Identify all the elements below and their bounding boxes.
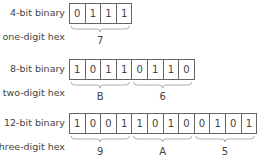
- brace: [71, 82, 129, 88]
- brace: [71, 26, 129, 32]
- brace: [133, 136, 191, 142]
- hex-digit: A: [159, 146, 166, 157]
- hex-digit: 7: [97, 35, 103, 46]
- brace: [133, 82, 191, 88]
- hex-digit: 6: [159, 91, 165, 102]
- brace: [196, 136, 254, 142]
- brace: [71, 136, 129, 142]
- hex-digit: 9: [97, 146, 103, 157]
- grouping-braces: [0, 0, 265, 161]
- hex-digit: 5: [222, 146, 228, 157]
- hex-digit: B: [97, 91, 104, 102]
